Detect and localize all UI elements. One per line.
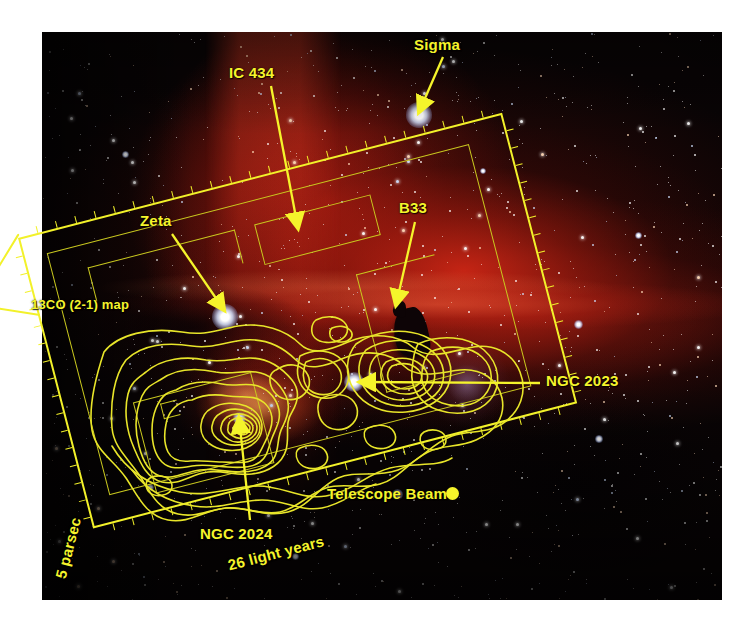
star [585, 53, 586, 54]
star [583, 498, 584, 499]
star [572, 535, 573, 536]
star [696, 582, 697, 583]
star [90, 145, 91, 146]
star [261, 83, 263, 85]
star [168, 101, 169, 102]
star [494, 55, 495, 56]
star [290, 151, 291, 152]
star [638, 213, 639, 214]
star [693, 482, 695, 484]
star [46, 551, 48, 553]
star [393, 457, 394, 458]
star [654, 471, 655, 472]
star [453, 517, 454, 518]
star [576, 498, 579, 501]
star [668, 86, 669, 87]
star [646, 126, 647, 127]
star [270, 108, 271, 109]
star [238, 136, 239, 137]
star [204, 516, 205, 517]
star [611, 485, 613, 487]
star [539, 583, 540, 584]
star [612, 484, 613, 485]
star [200, 39, 201, 40]
star [522, 143, 523, 144]
star [292, 518, 293, 519]
star [432, 544, 434, 546]
star [347, 108, 348, 109]
label-b33: B33 [399, 199, 427, 216]
star [554, 544, 555, 545]
star [368, 473, 369, 474]
star [500, 598, 501, 599]
star [198, 85, 199, 86]
star [673, 349, 674, 350]
star [615, 254, 616, 255]
star [388, 100, 390, 102]
star [191, 39, 192, 40]
star [268, 104, 269, 105]
star [663, 99, 664, 100]
star [634, 474, 635, 475]
star [143, 576, 145, 578]
star [133, 181, 136, 184]
star [677, 37, 678, 38]
star [659, 481, 660, 482]
star [144, 584, 146, 586]
star [627, 579, 628, 580]
star [615, 490, 616, 491]
star [423, 92, 426, 95]
star [475, 548, 476, 549]
star [379, 514, 380, 515]
star [713, 462, 714, 463]
star [45, 586, 47, 588]
star [49, 116, 50, 117]
star [700, 423, 701, 424]
star [328, 509, 329, 510]
star [633, 208, 634, 209]
star [570, 575, 571, 576]
star [428, 548, 429, 549]
star [533, 207, 535, 209]
star [645, 498, 647, 500]
star [574, 445, 575, 446]
star [149, 140, 150, 141]
star [612, 393, 613, 394]
star [683, 223, 684, 224]
star [68, 495, 70, 497]
star [371, 67, 372, 68]
star [584, 428, 586, 430]
star [171, 118, 172, 119]
star [642, 131, 644, 133]
star [659, 349, 660, 350]
star [562, 199, 563, 200]
star [121, 96, 122, 97]
star [55, 108, 56, 109]
star [562, 116, 563, 117]
star [411, 597, 412, 598]
star [636, 537, 639, 540]
star [496, 35, 497, 36]
star [534, 426, 535, 427]
star [135, 177, 136, 178]
star [129, 128, 130, 129]
star [466, 532, 467, 533]
star [705, 494, 707, 496]
star [318, 563, 319, 564]
star [657, 184, 658, 185]
star [442, 65, 445, 68]
star [669, 33, 671, 35]
star [531, 588, 533, 590]
star [45, 351, 46, 352]
star [468, 549, 470, 551]
star [603, 418, 606, 421]
star [604, 311, 605, 312]
star [398, 590, 401, 593]
star [594, 300, 596, 302]
star [617, 472, 619, 474]
star [451, 455, 452, 456]
star [274, 36, 275, 37]
star [85, 169, 86, 170]
star [662, 499, 663, 500]
star [485, 523, 488, 526]
